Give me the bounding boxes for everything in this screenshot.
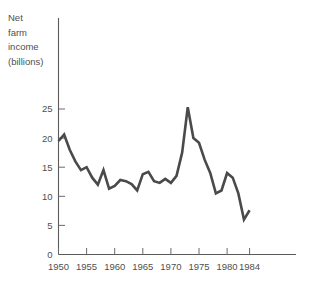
x-tick-label: 1955 [76,261,97,272]
x-tick-group: 19501955196019651970197519801984 [48,248,260,272]
y-tick-group: 0510152025 [42,103,65,260]
y-tick-label: 15 [42,162,53,173]
axis-title-line: Net [8,12,23,23]
y-tick-label: 0 [47,249,52,260]
x-tick-label: 1984 [239,261,260,272]
y-tick-label: 10 [42,191,53,202]
axis-title-line: farm [8,27,27,38]
axis-title: Netfarmincome(billions) [8,12,43,67]
x-tick-label: 1970 [160,261,181,272]
y-tick-label: 20 [42,133,53,144]
x-tick-label: 1960 [104,261,125,272]
axis-title-line: (billions) [8,56,43,67]
x-tick-label: 1980 [217,261,238,272]
chart-container: Netfarmincome(billions) 0510152025 19501… [0,0,310,289]
axis-title-line: income [8,41,39,52]
x-tick-label: 1965 [132,261,153,272]
line-chart: Netfarmincome(billions) 0510152025 19501… [0,0,310,289]
data-line-net-farm-income [59,107,250,219]
x-tick-label: 1950 [48,261,69,272]
y-tick-label: 25 [42,103,53,114]
x-tick-label: 1975 [188,261,209,272]
y-tick-label: 5 [47,220,52,231]
data-series-group [59,107,250,219]
